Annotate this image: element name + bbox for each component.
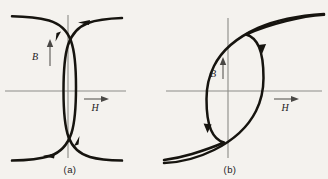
- panel-a-horizontal-axis-label: H: [90, 102, 99, 113]
- panel-a-inner-lower-direction-arrow: [74, 136, 80, 146]
- panel-b-horizontal-axis-label: H: [280, 102, 289, 113]
- panel-b-caption: (b): [224, 164, 237, 175]
- hysteresis-figure: B H (a) B: [0, 0, 328, 179]
- panel-b: B H (b): [164, 14, 324, 175]
- panel-a-up-arrow-icon: [47, 39, 53, 47]
- panel-a-vertical-axis-label: B: [32, 51, 38, 62]
- panel-b-right-arrow-icon: [291, 96, 299, 102]
- panel-a-upper-branch: [64, 18, 123, 161]
- figure-canvas: B H (a) B: [0, 0, 328, 179]
- panel-a: B H (a): [5, 15, 126, 175]
- panel-b-vertical-axis-label: B: [210, 68, 216, 79]
- panel-b-descending-branch-outer: [164, 14, 324, 160]
- panel-a-lower-branch: [12, 16, 76, 160]
- panel-a-caption: (a): [64, 164, 77, 175]
- panel-a-right-arrow-icon: [101, 96, 109, 102]
- panel-a-inner-upper-direction-arrow: [56, 32, 62, 42]
- panel-b-up-arrow-icon: [220, 57, 226, 65]
- panel-b-ascending-branch-outer: [164, 15, 324, 163]
